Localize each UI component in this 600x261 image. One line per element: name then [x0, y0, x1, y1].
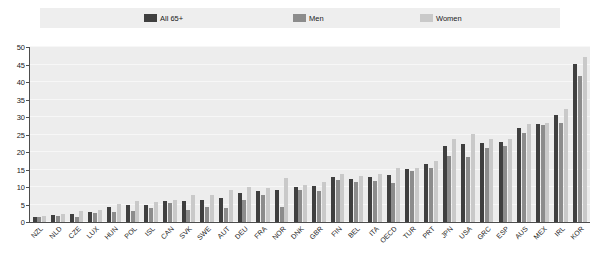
x-axis-tick: FIN [328, 224, 347, 261]
bar [466, 157, 470, 222]
bar-group [496, 47, 515, 222]
bar-group [515, 47, 534, 222]
bar [51, 215, 55, 222]
bar [256, 191, 260, 222]
series-swatch-icon [293, 14, 306, 22]
bar-group [552, 47, 571, 222]
bar [93, 213, 97, 222]
bar-group [105, 47, 124, 222]
chart-legend: All 65+ Men Women [40, 8, 560, 28]
x-axis-tick: NOR [272, 224, 291, 261]
bar [545, 123, 549, 222]
y-axis-tick-label: 15 [3, 165, 25, 174]
bar [75, 217, 79, 222]
bar-group [30, 47, 49, 222]
x-axis-tick-label: NZL [30, 225, 44, 239]
x-axis-tick: NLD [49, 224, 68, 261]
y-axis-tick-mark [26, 47, 29, 48]
bar [98, 210, 102, 222]
x-axis-tick-label: JPN [440, 225, 454, 239]
bar [536, 124, 540, 222]
x-axis-tick: SWE [198, 224, 217, 261]
x-axis-tick-label: POL [123, 225, 138, 240]
bar [219, 198, 223, 223]
y-axis-tick-label: 5 [3, 200, 25, 209]
x-axis-tick: DNK [291, 224, 310, 261]
bar [527, 124, 531, 222]
bar-group [440, 47, 459, 222]
x-axis-tick: POL [123, 224, 142, 261]
bar [517, 128, 521, 222]
bar [508, 139, 512, 222]
y-axis-tick-mark [26, 170, 29, 171]
bar [107, 207, 111, 222]
bar [410, 171, 414, 222]
bar [298, 190, 302, 222]
bar [131, 211, 135, 222]
bar [205, 207, 209, 222]
x-axis-tick: DEU [235, 224, 254, 261]
x-axis-tick-label: SVK [179, 225, 194, 240]
bar-group [571, 47, 590, 222]
x-axis-tick: CZE [67, 224, 86, 261]
x-axis-tick-label: MEX [532, 225, 548, 241]
bar [461, 144, 465, 222]
y-axis-tick-label: 25 [3, 130, 25, 139]
legend-item-women: Women [420, 14, 462, 23]
bar [424, 164, 428, 222]
x-axis: NZLNLDCZELUXHUNPOLISLCANSVKSWEAUTDEUFRAN… [30, 224, 589, 261]
bar [275, 190, 279, 222]
x-axis-tick-label: FRA [253, 225, 268, 240]
x-axis-tick: JPN [440, 224, 459, 261]
bar-group [366, 47, 385, 222]
bar [541, 125, 545, 222]
legend-label: Women [436, 14, 462, 23]
y-axis-tick-mark [26, 100, 29, 101]
x-axis-tick-label: DNK [290, 225, 305, 240]
bar-group [67, 47, 86, 222]
bar [182, 201, 186, 222]
bar [387, 175, 391, 222]
x-axis-tick-label: IRL [554, 225, 567, 238]
bar [471, 134, 475, 222]
y-axis: 05101520253035404550 [0, 40, 29, 230]
bar [163, 201, 167, 222]
bar [191, 195, 195, 222]
bar [261, 195, 265, 222]
x-axis-tick: FRA [254, 224, 273, 261]
x-axis-tick: AUS [515, 224, 534, 261]
bar [554, 115, 558, 222]
y-axis-tick-label: 45 [3, 60, 25, 69]
x-axis-tick: KOR [571, 224, 590, 261]
x-axis-tick: CAN [160, 224, 179, 261]
bar-group [272, 47, 291, 222]
bar [186, 210, 190, 222]
bar [368, 177, 372, 222]
bar [317, 191, 321, 222]
bar [200, 200, 204, 222]
bar [359, 176, 363, 222]
bar [149, 208, 153, 222]
bar-group [347, 47, 366, 222]
bar [247, 187, 251, 222]
bar [79, 211, 83, 222]
bar [284, 178, 288, 222]
bar [443, 146, 447, 222]
x-axis-tick-label: PRT [421, 225, 436, 240]
series-swatch-icon [144, 14, 157, 22]
bar [135, 201, 139, 222]
x-axis-tick: NZL [30, 224, 49, 261]
bar-group [421, 47, 440, 222]
bar [522, 133, 526, 222]
y-axis-tick-label: 20 [3, 148, 25, 157]
bar [434, 161, 438, 222]
x-axis-tick: TUR [403, 224, 422, 261]
bar-group [142, 47, 161, 222]
y-axis-tick-mark [26, 82, 29, 83]
bar [489, 139, 493, 222]
x-axis-tick: SVK [179, 224, 198, 261]
x-axis-tick-label: HUN [103, 225, 119, 241]
bar-group [160, 47, 179, 222]
bar-group [310, 47, 329, 222]
bar-group [179, 47, 198, 222]
